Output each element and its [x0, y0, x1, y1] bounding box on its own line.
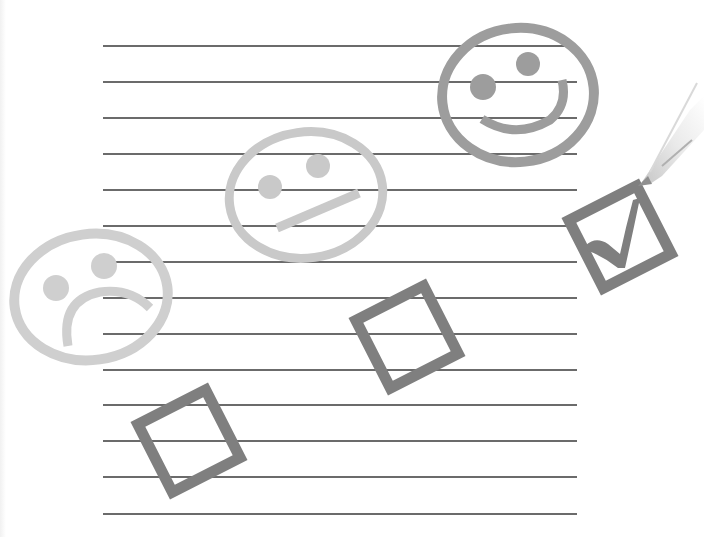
sad-face-right-eye — [91, 253, 117, 279]
neutral-face-mouth — [277, 193, 359, 228]
sad-face-icon — [6, 224, 176, 370]
neutral-face-left-eye — [258, 175, 282, 199]
neutral-face-icon — [221, 122, 391, 268]
checkbox-neutral[interactable] — [356, 286, 458, 388]
ruled-lines — [103, 46, 577, 514]
neutral-face-right-eye — [306, 154, 330, 178]
happy-face-icon — [435, 20, 600, 169]
pen-icon — [638, 83, 704, 186]
sad-face-left-eye — [43, 275, 69, 301]
happy-face-right-eye — [516, 52, 540, 76]
checkbox-happy[interactable] — [569, 186, 671, 288]
sad-face-frown — [67, 291, 150, 346]
happy-face-left-eye — [470, 74, 496, 100]
satisfaction-survey-illustration — [0, 0, 704, 537]
